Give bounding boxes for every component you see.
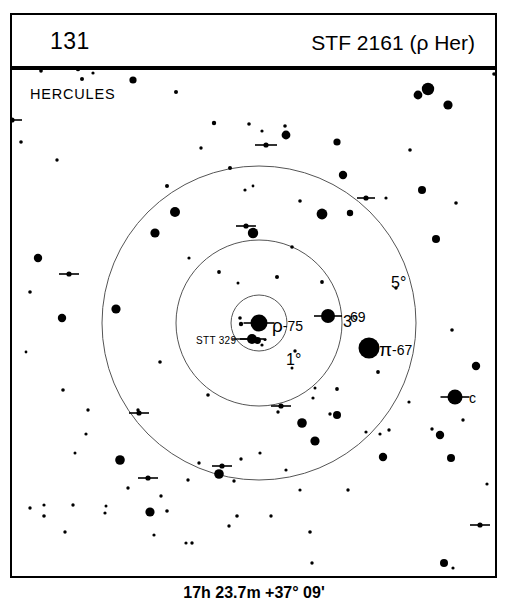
field-star [63,530,66,533]
field-star [19,140,23,144]
chart-number: 131 [50,27,90,56]
field-star [184,541,187,544]
field-star [408,148,412,152]
field-star [454,201,458,205]
field-star [74,452,77,455]
field-star [174,90,178,94]
field-star [126,486,129,489]
field-star [103,511,106,514]
field-star [436,431,444,439]
field-star [384,196,387,199]
field-star [55,158,58,161]
field-star [86,408,89,411]
pi-glyph: π [379,339,392,360]
field-star [376,370,380,374]
field-star [407,400,410,403]
field-star [298,488,301,491]
constellation-label: HERCULES [30,86,115,102]
field-star [339,171,347,179]
field-star [61,388,65,392]
field-star [214,469,224,479]
field-star [450,328,454,332]
field-star [165,184,169,188]
field-star [227,524,230,527]
rho-number: -75 [283,318,303,334]
double-star-dot [477,522,482,527]
field-star [25,351,28,354]
field-star [212,121,216,125]
field-star [84,432,87,435]
field-star [71,503,74,506]
field-star [308,530,312,534]
pi-number: -67 [392,342,412,358]
field-star [297,418,307,428]
field-star [346,488,349,491]
field-star [91,71,94,74]
field-star [447,454,455,462]
double-star-dot [278,403,283,408]
double-star-dot [66,271,71,276]
double-star-dot [363,195,368,200]
field-star [422,83,434,95]
field-star [115,455,125,465]
field-star [387,428,390,431]
ring-label-1deg: 1° [286,351,301,369]
field-star [58,314,66,322]
rho-glyph: ρ [272,315,283,336]
field-star [418,186,426,194]
field-star [159,494,162,497]
field-star [364,430,367,433]
field-star [28,506,31,509]
sky-plot [12,70,495,576]
field-star [238,316,242,320]
field-star [320,280,324,284]
field-star [284,468,287,471]
star-label-rho: ρ-75 [272,315,303,337]
field-star [150,228,159,237]
field-star [275,275,279,279]
field-star [443,100,452,109]
field-star [152,533,155,536]
field-star [263,338,266,341]
field-star [145,507,154,516]
named-star-69 [321,309,335,323]
field-star [430,427,433,430]
star-label-pi: π-67 [379,339,412,361]
double-star-dot [219,463,224,468]
field-star [347,210,353,216]
named-star-stt329-companion [254,337,261,344]
double-star-dot [263,142,268,147]
field-star [76,70,80,71]
field-star [170,207,180,217]
field-star [187,256,190,259]
field-star [414,91,423,100]
field-star [190,541,193,544]
field-star [247,122,251,126]
field-star [243,188,246,191]
field-star [440,559,448,567]
field-star [232,479,235,482]
field-star [248,228,258,238]
field-star [80,77,84,81]
named-star-c [448,390,463,405]
field-star [290,245,294,249]
field-star [129,76,136,83]
double-star-dot [243,223,248,228]
field-star [197,461,200,464]
field-star [378,432,381,435]
field-star [34,254,42,262]
field-star [105,505,108,508]
field-star [276,410,279,413]
coordinates-caption: 17h 23.7m +37° 09' [0,584,508,602]
field-star [260,343,263,346]
ring-label-5deg: 5° [391,274,406,292]
field-star [206,393,210,397]
field-star [298,199,302,203]
field-star [314,387,317,390]
field-star [217,270,221,274]
field-star [39,70,43,73]
chart-title: STF 2161 (ρ Her) [311,28,475,57]
field-star [335,387,339,391]
field-star [451,566,454,569]
field-star [310,561,313,564]
